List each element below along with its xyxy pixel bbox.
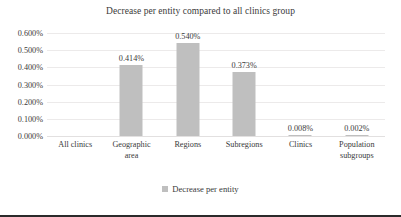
bar: [120, 65, 143, 136]
bar: [233, 72, 256, 136]
x-axis-category-label: All clinics: [47, 140, 103, 151]
bar-slot: 0.008%: [272, 33, 328, 136]
gridline: [47, 136, 385, 137]
bar-slot: 0.002%: [329, 33, 385, 136]
y-axis-tick-label: 0.100%: [0, 114, 43, 123]
y-axis-tick-label: 0.500%: [0, 46, 43, 55]
x-axis-category-label: Populationsubgroups: [329, 140, 385, 161]
bar-value-label: 0.540%: [175, 32, 200, 41]
category-label-line: subgroups: [329, 151, 385, 162]
y-axis-tick-label: 0.000%: [0, 132, 43, 141]
bar-value-label: 0.414%: [119, 54, 144, 63]
bar-value-label: 0.008%: [288, 124, 313, 133]
y-axis-tick-label: 0.300%: [0, 80, 43, 89]
bar: [345, 135, 368, 136]
bar-slot: 0.373%: [216, 33, 272, 136]
category-label-line: Clinics: [272, 140, 328, 151]
bar: [289, 135, 312, 136]
chart-legend: Decrease per entity: [0, 184, 401, 194]
category-label-line: Regions: [160, 140, 216, 151]
legend-label: Decrease per entity: [172, 184, 238, 194]
category-label-line: All clinics: [47, 140, 103, 151]
category-label-line: area: [103, 151, 159, 162]
legend-swatch-icon: [162, 186, 168, 192]
bar-value-label: 0.373%: [232, 61, 257, 70]
x-axis-category-labels: All clinicsGeographicareaRegionsSubregio…: [47, 140, 385, 170]
category-label-line: Population: [329, 140, 385, 151]
bar-chart: Decrease per entity compared to all clin…: [0, 0, 401, 217]
bar: [176, 43, 199, 136]
y-axis-tick-label: 0.200%: [0, 97, 43, 106]
x-axis-category-label: Clinics: [272, 140, 328, 151]
bar-slot: [47, 33, 103, 136]
plot-area: 0.414%0.540%0.373%0.008%0.002%: [47, 33, 385, 136]
chart-title: Decrease per entity compared to all clin…: [0, 6, 401, 16]
category-label-line: Subregions: [216, 140, 272, 151]
y-axis-tick-label: 0.600%: [0, 29, 43, 38]
bar-value-label: 0.002%: [344, 124, 369, 133]
bar-slot: 0.414%: [103, 33, 159, 136]
y-axis-tick-label: 0.400%: [0, 63, 43, 72]
x-axis-category-label: Subregions: [216, 140, 272, 151]
x-axis-category-label: Geographicarea: [103, 140, 159, 161]
category-label-line: Geographic: [103, 140, 159, 151]
x-axis-category-label: Regions: [160, 140, 216, 151]
bar-slot: 0.540%: [160, 33, 216, 136]
